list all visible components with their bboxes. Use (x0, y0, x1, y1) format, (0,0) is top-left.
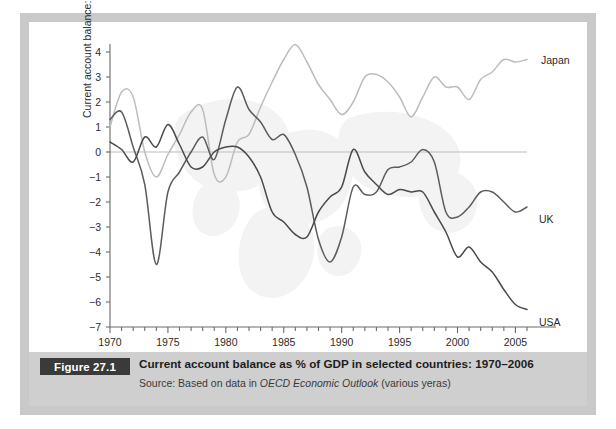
figure-source: Source: Based on data in OECD Economic O… (139, 377, 451, 389)
watermark-shape (239, 206, 315, 298)
source-prefix: Source: Based on data in (139, 377, 260, 389)
y-axis-tick-label: −1 (89, 171, 101, 183)
y-axis-tick-label: 3 (95, 71, 101, 83)
figure-panel: 43210−1−2−3−4−5−6−7197019751980198519901… (0, 0, 616, 429)
y-axis-tick-label: 1 (95, 121, 101, 133)
x-axis-tick-label: 1980 (214, 336, 238, 348)
figure-caption-band: Figure 27.1 Current account balance as %… (29, 352, 587, 406)
watermark-shape (419, 170, 477, 232)
watermark-shape (317, 226, 361, 275)
x-axis-tick-label: 1975 (156, 336, 180, 348)
y-axis-tick-label: −3 (89, 221, 101, 233)
chart-plot-area: 43210−1−2−3−4−5−6−7197019751980198519901… (29, 22, 587, 352)
source-suffix: (various yeras) (378, 377, 450, 389)
source-publication: OECD Economic Outlook (260, 377, 378, 389)
x-axis-tick-label: 1985 (272, 336, 296, 348)
watermark-shape (193, 181, 240, 236)
figure-number-badge: Figure 27.1 (40, 358, 130, 375)
series-label-usa: USA (539, 316, 561, 328)
x-axis-tick-label: 1995 (388, 336, 412, 348)
x-axis-tick-label: 1990 (330, 336, 354, 348)
y-axis-tick-label: −5 (89, 271, 101, 283)
y-axis-tick-label: −4 (89, 246, 101, 258)
y-axis-tick-label: 4 (95, 46, 101, 58)
x-axis-tick-label: 2000 (446, 336, 470, 348)
y-axis-tick-label: 2 (95, 96, 101, 108)
series-label-japan: Japan (541, 54, 570, 66)
x-axis-tick-label: 1970 (98, 336, 122, 348)
y-axis-tick-label: −7 (89, 321, 101, 333)
world-map-watermark (174, 99, 477, 298)
y-axis-title: Current account balance: % of GDP (81, 0, 93, 118)
figure-title: Current account balance as % of GDP in s… (139, 357, 534, 370)
y-axis-tick-label: −6 (89, 296, 101, 308)
y-axis-tick-label: −2 (89, 196, 101, 208)
x-axis-tick-label: 2005 (504, 336, 528, 348)
y-axis-tick-label: 0 (95, 146, 101, 158)
line-chart: 43210−1−2−3−4−5−6−7197019751980198519901… (29, 22, 587, 352)
series-label-uk: UK (539, 213, 554, 225)
